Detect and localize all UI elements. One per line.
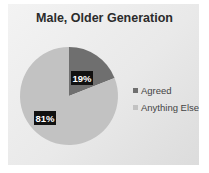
data-label-anything-else: 81% xyxy=(35,113,55,124)
legend-item-anything-else: Anything Else xyxy=(133,99,199,116)
legend-item-agreed: Agreed xyxy=(133,82,199,99)
legend-label-agreed: Agreed xyxy=(141,85,172,96)
legend-label-anything-else: Anything Else xyxy=(141,102,199,113)
legend-swatch-anything-else xyxy=(133,105,138,110)
data-label-agreed: 19% xyxy=(72,73,92,84)
legend-swatch-agreed xyxy=(133,88,138,93)
legend: Agreed Anything Else xyxy=(133,82,199,116)
